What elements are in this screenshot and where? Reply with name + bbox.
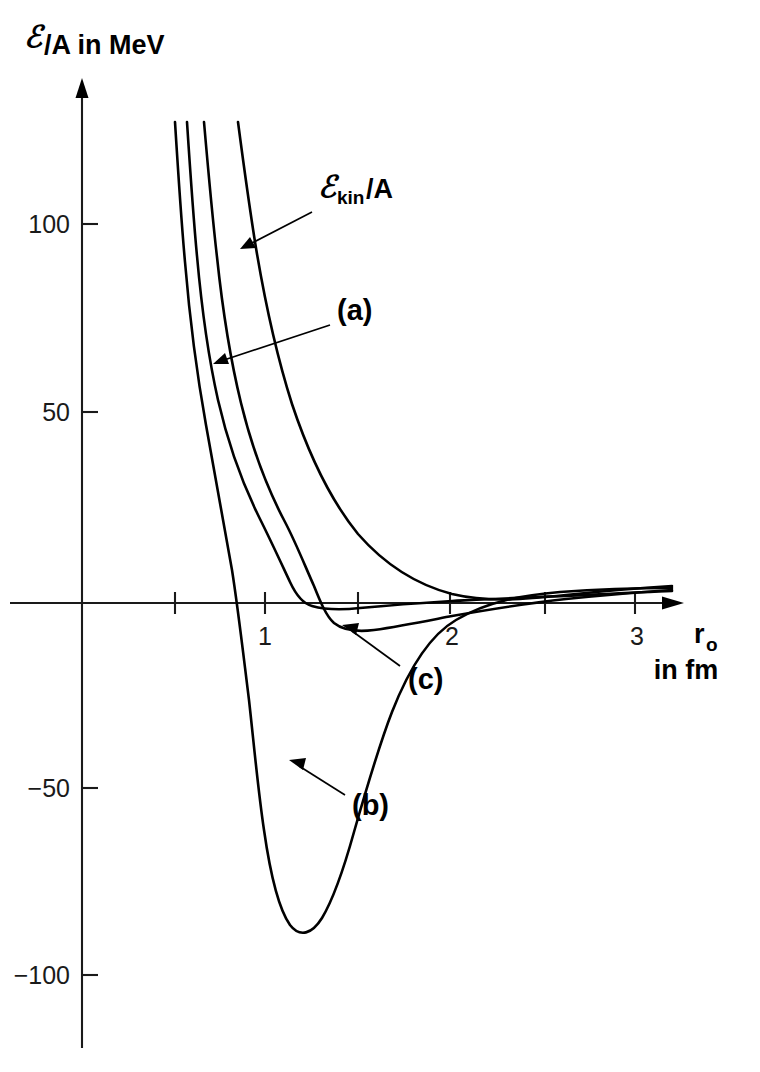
x-tick-label-1: 1 xyxy=(258,622,272,650)
annotation-a-arrowhead xyxy=(213,353,229,364)
y-axis-title: ℰ /A in MeV xyxy=(24,19,165,60)
annotation-b-label: (b) xyxy=(352,789,389,821)
x-axis-title-unit: in fm xyxy=(654,655,719,685)
axis-group: 100 50 −50 −100 1 2 3 ℰ /A in MeV r o in… xyxy=(10,19,718,1048)
annotation-c-label: (c) xyxy=(408,663,443,695)
y-axis-title-script-e: ℰ xyxy=(24,19,46,54)
curve-c xyxy=(204,122,672,631)
x-axis-title-symbol: r xyxy=(694,619,705,649)
annotation-kinetic-leader xyxy=(250,212,312,244)
y-axis-ticks xyxy=(82,224,98,975)
x-axis-title: r o in fm xyxy=(654,619,719,685)
y-tick-label-50: 50 xyxy=(42,398,70,426)
annotation-c: (c) xyxy=(342,623,443,695)
annotation-c-leader xyxy=(352,631,400,666)
x-axis-title-subscript: o xyxy=(706,634,718,655)
energy-per-nucleon-chart: 100 50 −50 −100 1 2 3 ℰ /A in MeV r o in… xyxy=(0,0,760,1072)
annotation-a-label: (a) xyxy=(337,294,372,326)
annotation-a: (a) xyxy=(213,294,372,364)
x-axis-arrowhead xyxy=(662,597,684,610)
annotation-b-leader xyxy=(299,766,345,795)
annotation-kinetic-subscript: kin xyxy=(337,187,364,208)
annotation-kinetic: ℰ kin /A xyxy=(240,169,393,249)
curve-a xyxy=(187,122,672,609)
y-axis-arrowhead xyxy=(76,78,89,98)
curve-kinetic-energy xyxy=(238,122,672,599)
y-axis-title-rest: /A in MeV xyxy=(44,30,165,60)
x-tick-label-3: 3 xyxy=(630,622,644,650)
y-tick-label-minus-50: −50 xyxy=(28,774,70,802)
y-tick-label-100: 100 xyxy=(28,210,70,238)
annotation-kinetic-rest: /A xyxy=(366,174,393,204)
y-tick-label-minus-100: −100 xyxy=(14,961,70,989)
